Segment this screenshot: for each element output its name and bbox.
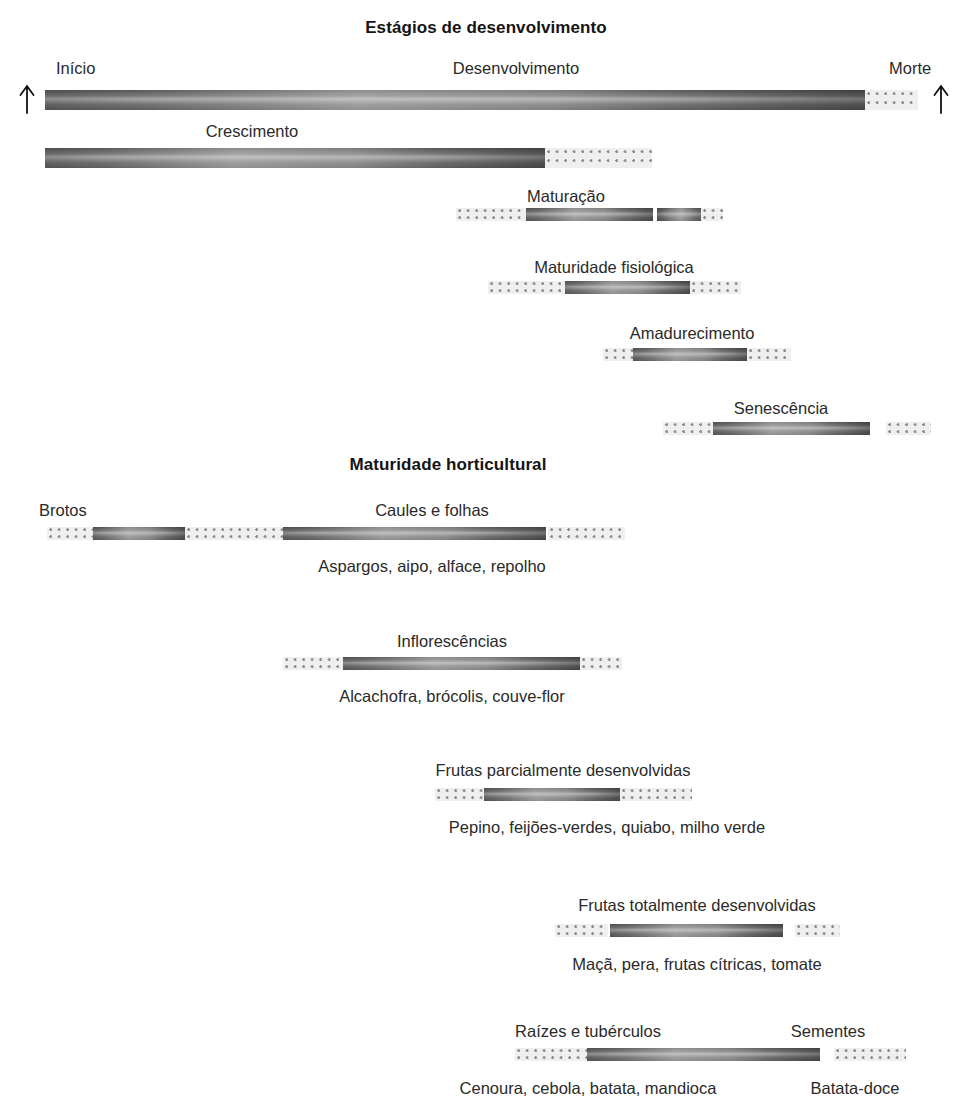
bar-frutas-parciais-solid bbox=[484, 788, 620, 801]
caption-sementes: Batata-doce bbox=[811, 1079, 900, 1098]
up-arrow-icon-right bbox=[932, 84, 950, 114]
label-brotos: Brotos bbox=[39, 501, 87, 520]
label-desenvolvimento: Desenvolvimento bbox=[453, 59, 580, 78]
label-maturacao: Maturação bbox=[527, 187, 605, 206]
bar-caules-solid bbox=[283, 527, 546, 540]
caption-frutas-totais: Maçã, pera, frutas cítricas, tomate bbox=[572, 955, 821, 974]
bar-inflorescencias-dotted-right bbox=[580, 657, 622, 670]
bar-crescimento-solid bbox=[45, 148, 545, 168]
label-raizes-tuberculos: Raízes e tubérculos bbox=[515, 1022, 661, 1041]
up-arrow-icon-left bbox=[18, 84, 36, 114]
caption-frutas-parciais: Pepino, feijões-verdes, quiabo, milho ve… bbox=[449, 818, 765, 837]
bar-senescencia-solid bbox=[713, 422, 870, 435]
bar-maturacao-solid-b bbox=[657, 208, 701, 221]
bar-maturacao-dotted-left bbox=[456, 208, 526, 221]
caption-raizes: Cenoura, cebola, batata, mandioca bbox=[460, 1079, 717, 1098]
caption-inflorescencias: Alcachofra, brócolis, couve-flor bbox=[339, 687, 565, 706]
label-inicio: Início bbox=[56, 59, 95, 78]
label-morte: Morte bbox=[889, 59, 931, 78]
label-caules-e-folhas: Caules e folhas bbox=[375, 501, 489, 520]
bar-crescimento-dotted bbox=[545, 148, 652, 168]
bar-maturidade-fisiologica-dotted-right bbox=[690, 281, 741, 294]
bar-maturidade-fisiologica-dotted-left bbox=[488, 281, 565, 294]
bar-amadurecimento-solid bbox=[633, 348, 747, 361]
section-title-development: Estágios de desenvolvimento bbox=[365, 18, 607, 38]
label-frutas-totais: Frutas totalmente desenvolvidas bbox=[578, 896, 816, 915]
label-maturidade-fisiologica: Maturidade fisiológica bbox=[534, 258, 694, 277]
label-sementes: Sementes bbox=[791, 1022, 865, 1041]
bar-caules-dotted-right bbox=[548, 527, 625, 540]
bar-frutas-parciais-dotted-right bbox=[620, 788, 692, 801]
diagram-canvas: Estágios de desenvolvimento Início Desen… bbox=[0, 0, 972, 1113]
bar-brotos-solid bbox=[93, 527, 185, 540]
bar-maturacao-solid-a bbox=[526, 208, 653, 221]
bar-brotos-dotted-right bbox=[185, 527, 283, 540]
bar-amadurecimento-dotted-left bbox=[603, 348, 633, 361]
label-crescimento: Crescimento bbox=[206, 122, 299, 141]
label-senescencia: Senescência bbox=[734, 399, 828, 418]
bar-desenvolvimento-dotted bbox=[865, 90, 918, 110]
bar-raizes-solid bbox=[587, 1048, 820, 1061]
bar-desenvolvimento-solid bbox=[45, 90, 865, 110]
bar-raizes-dotted-left bbox=[515, 1048, 587, 1061]
bar-amadurecimento-dotted-right bbox=[747, 348, 791, 361]
bar-maturacao-dotted-right bbox=[701, 208, 723, 221]
section-title-horticultural: Maturidade horticultural bbox=[350, 455, 547, 475]
bar-brotos-dotted-left bbox=[47, 527, 93, 540]
bar-frutas-parciais-dotted-left bbox=[435, 788, 484, 801]
label-frutas-parciais: Frutas parcialmente desenvolvidas bbox=[436, 761, 691, 780]
bar-frutas-totais-dotted-right bbox=[795, 924, 840, 937]
bar-maturidade-fisiologica-solid bbox=[565, 281, 690, 294]
bar-inflorescencias-solid bbox=[343, 657, 580, 670]
bar-senescencia-dotted-left bbox=[663, 422, 713, 435]
bar-sementes-dotted bbox=[834, 1048, 906, 1061]
bar-senescencia-dotted-right bbox=[886, 422, 931, 435]
bar-frutas-totais-dotted-left bbox=[555, 924, 608, 937]
bar-frutas-totais-solid bbox=[610, 924, 783, 937]
label-amadurecimento: Amadurecimento bbox=[630, 324, 755, 343]
label-inflorescencias: Inflorescências bbox=[397, 632, 507, 651]
caption-caules: Aspargos, aipo, alface, repolho bbox=[318, 557, 545, 576]
bar-inflorescencias-dotted-left bbox=[283, 657, 343, 670]
